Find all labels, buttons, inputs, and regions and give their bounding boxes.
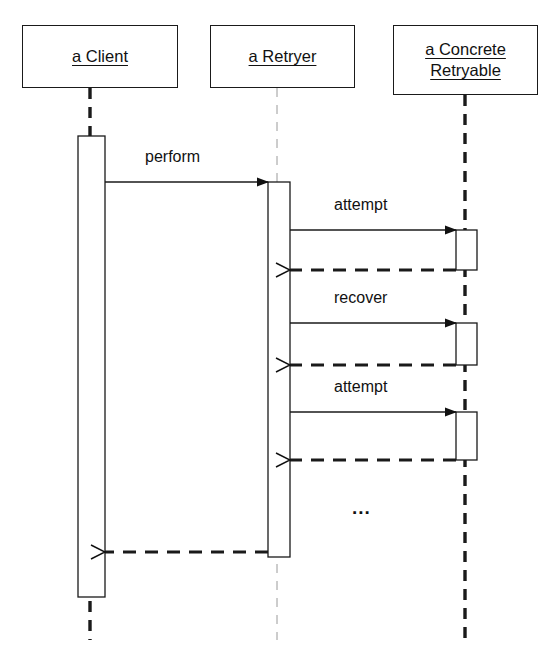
sequence-diagram: a Clienta Retryera ConcreteRetryable per…	[0, 0, 558, 657]
activation-bar-retryable-4[interactable]	[456, 412, 477, 460]
activation-bar-retryable-2[interactable]	[456, 230, 477, 270]
participant-label-retryable: Retryable	[430, 60, 501, 81]
message-label-m2: attempt	[334, 196, 387, 214]
activation-bars-layer	[78, 136, 477, 597]
message-label-m4: attempt	[334, 378, 387, 396]
participant-box-client[interactable]: a Client	[22, 25, 178, 88]
participant-label-client: a Client	[72, 46, 128, 67]
participant-box-retryable[interactable]: a ConcreteRetryable	[393, 25, 538, 95]
participant-label-retryable: a Concrete	[425, 39, 506, 60]
diagram-canvas	[0, 0, 558, 657]
participant-label-retryer: a Retryer	[249, 46, 317, 67]
message-label-m3: recover	[334, 289, 387, 307]
message-label-m1: perform	[145, 148, 200, 166]
activation-bar-retryer-1[interactable]	[268, 182, 290, 557]
participant-box-retryer[interactable]: a Retryer	[210, 25, 355, 88]
annotation-continuation: ...	[352, 498, 371, 517]
activation-bar-retryable-3[interactable]	[456, 323, 477, 365]
activation-bar-client-0[interactable]	[78, 136, 105, 597]
